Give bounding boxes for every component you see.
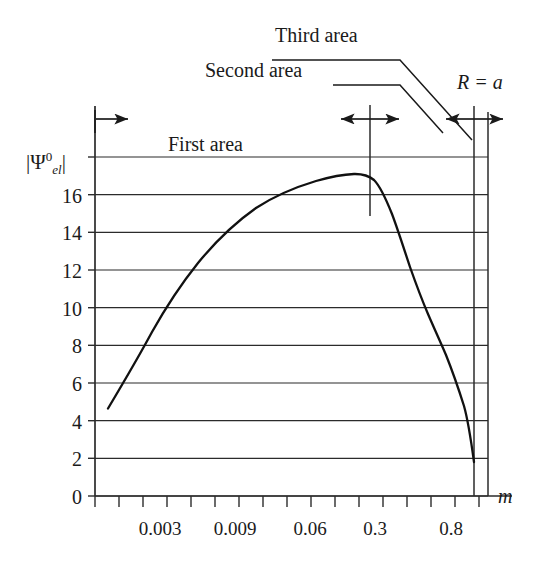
y-tick-label-12: 12 (38, 261, 82, 281)
data-curve (108, 174, 474, 462)
y-tick-label-16: 16 (38, 186, 82, 206)
x-tick-label-08: 0.8 (420, 519, 482, 538)
y-axis-label-subscript: el (52, 162, 61, 177)
y-tick-label-4: 4 (38, 412, 82, 432)
y-tick-marks (88, 157, 95, 496)
x-tick-label-03: 0.3 (344, 519, 406, 538)
second-area-leader-line (333, 85, 443, 133)
y-tick-label-10: 10 (38, 299, 82, 319)
r-equals-a-label: R = a (457, 72, 503, 92)
first-area-label: First area (168, 134, 243, 154)
y-axis-label: |Ψ0el| (26, 150, 66, 176)
y-axis-label-symbol: Ψ (30, 150, 46, 174)
y-tick-label-0: 0 (38, 487, 82, 507)
third-area-label: Third area (275, 25, 358, 45)
x-tick-label-0003: 0.003 (120, 519, 200, 538)
y-tick-label-6: 6 (38, 374, 82, 394)
y-tick-label-2: 2 (38, 449, 82, 469)
second-area-label: Second area (205, 60, 302, 80)
x-tick-marks (95, 496, 479, 507)
y-tick-label-8: 8 (38, 336, 82, 356)
y-axis-label-bar-right: | (62, 150, 66, 174)
x-axis-name: m (498, 486, 512, 506)
figure-container: |Ψ0el| 16 14 12 10 8 6 4 2 0 0.003 0.009… (0, 0, 548, 566)
x-tick-label-006: 0.06 (272, 519, 348, 538)
y-tick-label-14: 14 (38, 223, 82, 243)
x-tick-label-0009: 0.009 (195, 519, 275, 538)
